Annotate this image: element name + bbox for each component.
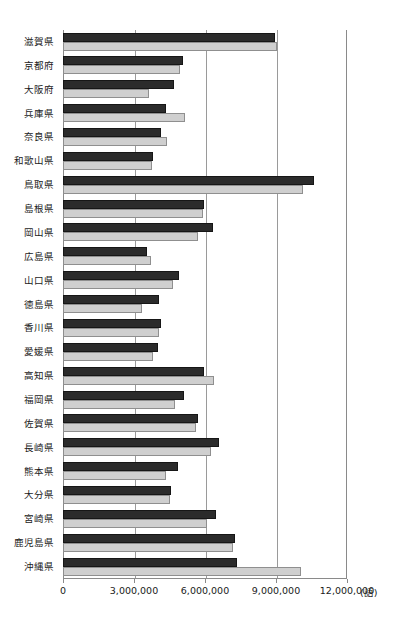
bar-series-2 bbox=[63, 423, 196, 432]
x-axis-tick-label: 0 bbox=[60, 585, 66, 596]
bar-series-1 bbox=[63, 534, 235, 543]
bar-group bbox=[63, 558, 347, 576]
bar-series-2 bbox=[63, 519, 207, 528]
bar-series-1 bbox=[63, 176, 314, 185]
bar-series-1 bbox=[63, 80, 174, 89]
y-axis-label: 大阪府 bbox=[24, 84, 54, 95]
bar-series-2 bbox=[63, 543, 233, 552]
bar-series-1 bbox=[63, 558, 237, 567]
bar-series-2 bbox=[63, 567, 301, 576]
y-axis-label: 沖縄県 bbox=[24, 561, 54, 572]
y-axis-label: 広島県 bbox=[24, 251, 54, 262]
bar-series-1 bbox=[63, 343, 158, 352]
bar-series-2 bbox=[63, 280, 173, 289]
bar-series-2 bbox=[63, 209, 203, 218]
x-axis-labels: (語) 03,000,0006,000,0009,000,00012,000,0… bbox=[0, 585, 408, 601]
bar-series-2 bbox=[63, 137, 167, 146]
bar-series-1 bbox=[63, 319, 161, 328]
bar-series-2 bbox=[63, 113, 185, 122]
y-axis-label: 福岡県 bbox=[24, 394, 54, 405]
y-axis-label: 兵庫県 bbox=[24, 108, 54, 119]
prefecture-word-count-bar-chart: 滋賀県京都府大阪府兵庫県奈良県和歌山県鳥取県島根県岡山県広島県山口県徳島県香川県… bbox=[0, 0, 408, 631]
y-axis-label: 奈良県 bbox=[24, 131, 54, 142]
bar-group bbox=[63, 510, 347, 528]
bar-series-1 bbox=[63, 152, 153, 161]
bar-series-1 bbox=[63, 295, 159, 304]
bar-series-2 bbox=[63, 65, 180, 74]
bar-group bbox=[63, 56, 347, 74]
x-tick-12000000 bbox=[347, 579, 348, 583]
bar-group bbox=[63, 486, 347, 504]
x-tick-3000000 bbox=[134, 579, 135, 583]
bar-series-1 bbox=[63, 438, 219, 447]
bar-series-2 bbox=[63, 400, 175, 409]
bars-layer bbox=[63, 30, 347, 579]
bar-series-1 bbox=[63, 486, 171, 495]
y-axis-label: 佐賀県 bbox=[24, 418, 54, 429]
bar-group bbox=[63, 295, 347, 313]
bar-series-1 bbox=[63, 414, 198, 423]
bar-series-2 bbox=[63, 352, 153, 361]
bar-group bbox=[63, 33, 347, 51]
y-axis-label: 徳島県 bbox=[24, 299, 54, 310]
bar-group bbox=[63, 391, 347, 409]
x-axis-tick-label: 6,000,000 bbox=[181, 585, 229, 596]
bar-series-1 bbox=[63, 223, 213, 232]
bar-group bbox=[63, 104, 347, 122]
x-tick-9000000 bbox=[276, 579, 277, 583]
y-axis-label: 和歌山県 bbox=[14, 155, 54, 166]
y-axis-label: 鹿児島県 bbox=[14, 537, 54, 548]
bar-series-2 bbox=[63, 161, 152, 170]
x-axis-tick-label: 3,000,000 bbox=[110, 585, 158, 596]
bar-series-1 bbox=[63, 128, 161, 137]
bar-series-1 bbox=[63, 200, 204, 209]
y-axis-label: 高知県 bbox=[24, 370, 54, 381]
bar-series-2 bbox=[63, 447, 211, 456]
y-axis-label: 山口県 bbox=[24, 275, 54, 286]
y-axis-label: 滋賀県 bbox=[24, 36, 54, 47]
y-axis-label: 岡山県 bbox=[24, 227, 54, 238]
bar-series-1 bbox=[63, 33, 275, 42]
bar-series-1 bbox=[63, 247, 147, 256]
bar-series-2 bbox=[63, 376, 214, 385]
bar-group bbox=[63, 247, 347, 265]
bar-group bbox=[63, 367, 347, 385]
y-axis-label: 愛媛県 bbox=[24, 346, 54, 357]
bar-series-2 bbox=[63, 89, 149, 98]
x-axis-tick-label: 9,000,000 bbox=[252, 585, 300, 596]
bar-group bbox=[63, 534, 347, 552]
x-axis-tick-label: 12,000,000 bbox=[320, 585, 374, 596]
bar-series-2 bbox=[63, 185, 303, 194]
bar-series-1 bbox=[63, 271, 179, 280]
y-axis-label: 熊本県 bbox=[24, 466, 54, 477]
bar-series-2 bbox=[63, 304, 142, 313]
bar-group bbox=[63, 438, 347, 456]
bar-series-2 bbox=[63, 495, 170, 504]
bar-series-1 bbox=[63, 462, 178, 471]
bar-group bbox=[63, 343, 347, 361]
bar-group bbox=[63, 80, 347, 98]
bar-group bbox=[63, 200, 347, 218]
bar-group bbox=[63, 414, 347, 432]
bar-series-1 bbox=[63, 56, 183, 65]
y-axis-label: 島根県 bbox=[24, 203, 54, 214]
bar-group bbox=[63, 128, 347, 146]
bar-series-1 bbox=[63, 510, 216, 519]
y-axis-label: 鳥取県 bbox=[24, 179, 54, 190]
plot-wrapper: 滋賀県京都府大阪府兵庫県奈良県和歌山県鳥取県島根県岡山県広島県山口県徳島県香川県… bbox=[0, 0, 408, 631]
bar-series-2 bbox=[63, 42, 277, 51]
y-axis-label: 香川県 bbox=[24, 322, 54, 333]
y-axis-label: 宮崎県 bbox=[24, 513, 54, 524]
bar-group bbox=[63, 152, 347, 170]
y-axis-label: 大分県 bbox=[24, 489, 54, 500]
y-axis-label: 長崎県 bbox=[24, 442, 54, 453]
bar-series-1 bbox=[63, 367, 204, 376]
bar-series-2 bbox=[63, 232, 198, 241]
bar-series-2 bbox=[63, 471, 166, 480]
bar-series-1 bbox=[63, 104, 166, 113]
bar-group bbox=[63, 176, 347, 194]
bar-group bbox=[63, 271, 347, 289]
bar-group bbox=[63, 462, 347, 480]
bar-series-2 bbox=[63, 328, 159, 337]
bar-series-2 bbox=[63, 256, 151, 265]
